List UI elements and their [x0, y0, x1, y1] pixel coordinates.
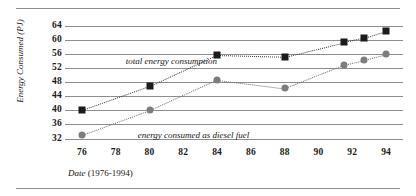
- x-tick-label: 86: [236, 148, 266, 158]
- chart-figure: Energy Consumed (PJ) Date (1976-1994) 32…: [0, 0, 416, 196]
- x-tick-label: 94: [371, 148, 401, 158]
- top-rule: [16, 8, 400, 9]
- y-tick-label: 52: [22, 63, 62, 73]
- y-tick-label: 40: [22, 105, 62, 115]
- y-tick-label: 60: [22, 35, 62, 45]
- series-line-segment: [217, 80, 285, 89]
- data-point-marker: [383, 27, 390, 34]
- y-axis-title: Energy Consumed (PJ): [15, 1, 25, 121]
- plot-area: total energy consumption energy consumed…: [65, 22, 403, 142]
- y-tick-label: 56: [22, 49, 62, 59]
- data-point-marker: [214, 76, 221, 83]
- x-axis-title-range: (1976-1994): [88, 168, 133, 178]
- gridline: [65, 110, 403, 111]
- series-line-segment: [217, 55, 285, 58]
- data-point-marker: [361, 56, 368, 63]
- data-point-marker: [383, 51, 390, 58]
- annotation-diesel-fuel: energy consumed as diesel fuel: [138, 131, 250, 140]
- data-point-marker: [78, 131, 85, 138]
- x-tick-label: 88: [270, 148, 300, 158]
- series-line-segment: [285, 42, 344, 57]
- gridline: [65, 124, 403, 125]
- data-point-marker: [146, 107, 153, 114]
- x-tick-label: 92: [337, 148, 367, 158]
- x-tick-label: 90: [304, 148, 334, 158]
- data-point-marker: [146, 83, 153, 90]
- bottom-rule: [16, 188, 400, 189]
- data-point-marker: [340, 61, 347, 68]
- y-tick-label: 44: [22, 91, 62, 101]
- x-tick-label: 76: [67, 148, 97, 158]
- x-tick-label: 78: [101, 148, 131, 158]
- x-tick-label: 84: [202, 148, 232, 158]
- data-point-marker: [78, 107, 85, 114]
- gridline: [65, 68, 403, 69]
- data-point-marker: [340, 39, 347, 46]
- annotation-total-energy: total energy consumption: [126, 57, 217, 66]
- data-point-marker: [281, 53, 288, 60]
- x-tick-label: 82: [168, 148, 198, 158]
- data-point-marker: [281, 85, 288, 92]
- x-axis-title-text: Date: [68, 168, 86, 178]
- data-point-marker: [361, 34, 368, 41]
- series-line-segment: [82, 86, 150, 111]
- y-tick-label: 48: [22, 77, 62, 87]
- gridline: [65, 26, 403, 27]
- y-tick-label: 64: [22, 21, 62, 31]
- y-tick-label: 32: [22, 134, 62, 144]
- y-tick-label: 36: [22, 119, 62, 129]
- x-tick-label: 80: [135, 148, 165, 158]
- x-axis-title: Date (1976-1994): [68, 168, 133, 178]
